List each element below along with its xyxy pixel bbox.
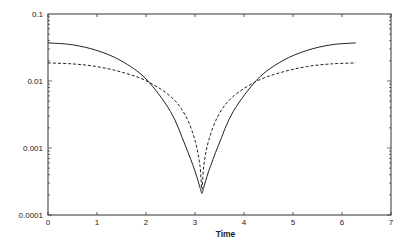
y-tick-label: 0.001 — [23, 144, 44, 153]
x-tick-label: 1 — [95, 218, 100, 227]
series-dashed — [48, 63, 356, 190]
data-lines — [48, 43, 356, 194]
x-tick-label: 7 — [389, 218, 394, 227]
x-axis-title: Time — [216, 229, 236, 239]
series-solid — [48, 43, 356, 194]
y-tick-label: 0.01 — [27, 77, 43, 86]
x-tick-label: 5 — [291, 218, 296, 227]
x-tick-label: 2 — [144, 218, 149, 227]
x-tick-label: 0 — [46, 218, 51, 227]
x-tick-label: 3 — [193, 218, 198, 227]
x-tick-label: 4 — [242, 218, 247, 227]
y-tick-label: 0.0001 — [19, 211, 44, 220]
y-tick-label: 0.1 — [32, 10, 44, 19]
x-tick-label: 6 — [340, 218, 345, 227]
chart: 012345670.00010.0010.010.1Time — [0, 0, 413, 245]
